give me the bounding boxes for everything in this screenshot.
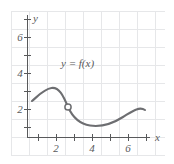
x-axis-label: x xyxy=(154,131,160,143)
x-tick-label-2: 2 xyxy=(53,142,59,154)
y-tick-label-6: 6 xyxy=(17,31,23,43)
y-tick-label-4: 4 xyxy=(17,67,23,79)
function-annotation: y = f(x) xyxy=(60,57,94,70)
horizontal-grid-lines xyxy=(11,12,165,156)
x-tick-label-6: 6 xyxy=(125,142,131,154)
function-curve xyxy=(32,88,145,126)
graph-figure: 6 4 2 2 4 6 y x y = f(x) xyxy=(0,0,174,164)
y-axis-label: y xyxy=(32,12,38,24)
open-circle-marker xyxy=(65,104,71,110)
function-plot: 6 4 2 2 4 6 y x y = f(x) xyxy=(0,0,174,164)
x-tick-label-4: 4 xyxy=(89,142,95,154)
y-tick-label-2: 2 xyxy=(17,103,23,115)
